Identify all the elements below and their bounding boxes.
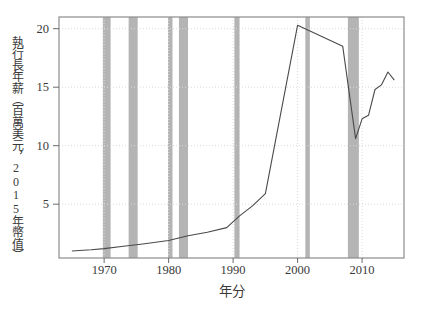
x-tick-label: 1970 — [92, 263, 117, 277]
recession-band — [348, 17, 359, 258]
x-tick-label: 2000 — [285, 263, 310, 277]
x-axis-title: 年分 — [59, 280, 404, 300]
recession-band — [129, 17, 138, 258]
x-tick-label: 2010 — [350, 263, 375, 277]
ceo-pay-line-chart: 510152019701980199020002010 — [0, 0, 422, 314]
y-axis-title: 執行長年薪（百萬美元，2015年幣值） — [10, 36, 22, 256]
recession-band — [234, 17, 239, 258]
y-tick-label: 10 — [37, 139, 50, 153]
recession-band — [305, 17, 310, 258]
recession-band — [179, 17, 188, 258]
y-tick-label: 15 — [37, 80, 50, 94]
x-tick-label: 1990 — [221, 263, 246, 277]
y-tick-label: 5 — [43, 197, 49, 211]
figure: 510152019701980199020002010 執行長年薪（百萬美元，2… — [0, 0, 422, 314]
y-tick-label: 20 — [37, 22, 50, 36]
x-tick-label: 1980 — [156, 263, 181, 277]
